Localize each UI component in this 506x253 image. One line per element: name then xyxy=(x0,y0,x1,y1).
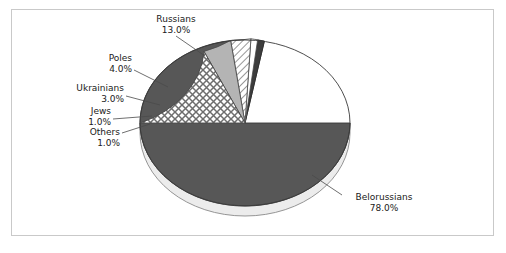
pie-label-jews-name: Jews xyxy=(62,106,111,117)
pie-label-russians-name: Russians xyxy=(138,14,214,25)
pie-label-ukrainians-name: Ukrainians xyxy=(53,83,124,94)
pie-label-ukrainians-value: 3.0% xyxy=(53,94,124,105)
pie-label-jews-value: 1.0% xyxy=(62,117,111,128)
pie-label-poles-name: Poles xyxy=(74,53,132,64)
pie-label-poles-value: 4.0% xyxy=(74,64,132,75)
pie-label-belorussians-value: 78.0% xyxy=(344,203,424,214)
pie-label-poles: Poles 4.0% xyxy=(74,53,132,74)
pie-chart-figure: Russians 13.0% Poles 4.0% Ukrainians 3.0… xyxy=(0,0,506,253)
pie-label-belorussians: Belorussians 78.0% xyxy=(344,192,424,213)
pie-label-ukrainians: Ukrainians 3.0% xyxy=(53,83,124,104)
pie-label-jews: Jews 1.0% xyxy=(62,106,111,127)
pie-label-others-value: 1.0% xyxy=(58,138,120,149)
pie-label-russians: Russians 13.0% xyxy=(138,14,214,35)
pie-label-others-name: Others xyxy=(58,127,120,138)
pie-label-belorussians-name: Belorussians xyxy=(344,192,424,203)
pie-label-russians-value: 13.0% xyxy=(138,25,214,36)
pie-label-others: Others 1.0% xyxy=(58,127,120,148)
